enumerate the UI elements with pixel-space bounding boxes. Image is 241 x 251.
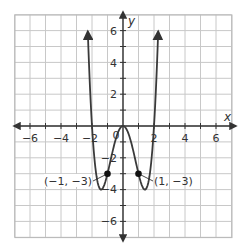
y-tick-label: 6 (110, 25, 117, 38)
x-tick-label: −6 (22, 132, 38, 145)
x-axis-label: x (223, 110, 232, 124)
x-tick-label: 2 (151, 132, 158, 145)
y-tick-label: 2 (110, 88, 117, 101)
y-tick-label: 4 (110, 57, 117, 70)
y-tick-label: −4 (101, 183, 117, 196)
point-marker (104, 170, 111, 177)
point-label-right: (1, −3) (154, 175, 193, 188)
x-tick-label: 4 (182, 132, 189, 145)
y-axis-label: y (127, 14, 136, 28)
y-tick-label: −2 (101, 152, 117, 165)
x-tick-label: 6 (213, 132, 220, 145)
point-marker (135, 170, 142, 177)
x-tick-label: −2 (82, 132, 98, 145)
origin-label: 0 (113, 129, 120, 142)
y-tick-label: −6 (101, 215, 117, 228)
leader-line (141, 175, 153, 181)
x-tick-label: −4 (53, 132, 69, 145)
leader-line (93, 175, 105, 181)
function-graph: −6 −4 −2 2 4 6 0 6 4 2 −2 −4 −6 x y (−1,… (0, 0, 241, 251)
point-label-left: (−1, −3) (44, 175, 92, 188)
